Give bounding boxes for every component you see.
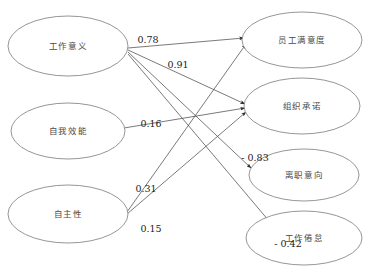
- edge-coefficient-label: 0.91: [167, 59, 188, 70]
- nodes-layer: 工作意义自我效能自主性员工满意度组织承诺离职意向工作倦怠: [8, 12, 362, 265]
- edge-coefficient-label: 0.31: [135, 183, 156, 194]
- node-label-work_meaning: 工作意义: [49, 41, 87, 51]
- diagram-canvas: 工作意义自我效能自主性员工满意度组织承诺离职意向工作倦怠 0.780.91- 0…: [0, 0, 376, 274]
- node-work_meaning[interactable]: 工作意义: [8, 16, 128, 76]
- edge-coefficient-label: - 0.83: [241, 152, 268, 163]
- node-autonomy[interactable]: 自主性: [8, 185, 128, 243]
- node-label-satisfaction: 员工满意度: [278, 35, 326, 45]
- node-label-commitment: 组织承诺: [283, 101, 321, 111]
- node-commitment[interactable]: 组织承诺: [244, 78, 360, 134]
- edge-coefficient-label: 0.16: [140, 118, 161, 129]
- edge-coefficient-label: - 0.42: [274, 238, 301, 249]
- node-self_efficacy[interactable]: 自我效能: [11, 103, 125, 159]
- edges-layer: [124, 38, 280, 234]
- node-burnout[interactable]: 工作倦怠: [246, 211, 362, 265]
- node-label-autonomy: 自主性: [54, 209, 83, 219]
- edge-coefficient-label: 0.15: [140, 223, 161, 234]
- node-label-self_efficacy: 自我效能: [49, 126, 87, 136]
- edge-work_meaning-to-burnout: [128, 54, 280, 234]
- node-label-turnover: 离职意向: [285, 170, 323, 180]
- path-diagram: 工作意义自我效能自主性员工满意度组织承诺离职意向工作倦怠 0.780.91- 0…: [0, 0, 376, 274]
- node-satisfaction[interactable]: 员工满意度: [242, 12, 362, 68]
- edge-coefficient-label: 0.78: [137, 34, 158, 45]
